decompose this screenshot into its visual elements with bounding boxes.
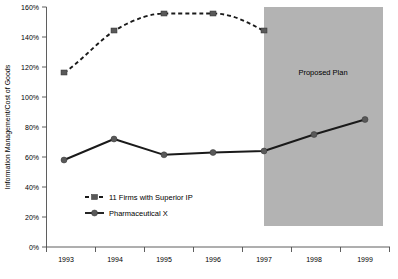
data-point-marker (261, 148, 267, 154)
legend-label: Pharmaceutical X (109, 209, 168, 218)
y-tick-label: 20% (25, 214, 39, 221)
x-tick-label: 1993 (58, 256, 74, 263)
y-tick-label: 160% (21, 4, 39, 11)
y-tick-label: 40% (25, 184, 39, 191)
legend-item-11-firms-with-superior-ip[interactable]: 11 Firms with Superior IP (85, 193, 193, 202)
proposed-plan-label: Proposed Plan (298, 68, 347, 77)
y-axis-tick-labels: 160% 140% 120% 100% 80% 60% 40% 20% 0% (21, 4, 39, 251)
data-point-marker (111, 28, 117, 33)
chart-container: Proposed Plan 160% 140% 120% 100% 80% 60… (0, 0, 398, 279)
x-tick-label: 1997 (256, 256, 272, 263)
legend-item-pharmaceutical-x[interactable]: Pharmaceutical X (85, 209, 168, 218)
data-point-marker (362, 117, 368, 123)
data-point-marker (210, 150, 216, 156)
chart-legend: 11 Firms with Superior IP Pharmaceutical… (85, 193, 193, 218)
y-tick-label: 60% (25, 154, 39, 161)
x-tick-label: 1995 (156, 256, 172, 263)
y-tick-label: 100% (21, 94, 39, 101)
y-tick-label: 120% (21, 64, 39, 71)
x-tick-label: 1998 (306, 256, 322, 263)
y-axis-title: Information Management/Cost of Goods (4, 64, 12, 189)
x-tick-label: 1996 (205, 256, 221, 263)
data-point-marker (210, 11, 216, 16)
y-tick-label: 0% (29, 244, 39, 251)
data-point-marker (311, 132, 317, 138)
data-point-marker (161, 152, 167, 158)
series-markers-11-firms-with-superior-ip (61, 11, 267, 75)
y-tick-label: 140% (21, 34, 39, 41)
data-point-marker (61, 157, 67, 163)
y-axis-ticks (42, 7, 47, 247)
data-point-marker (111, 136, 117, 142)
legend-label: 11 Firms with Superior IP (109, 193, 193, 202)
data-point-marker (61, 70, 67, 75)
y-tick-label: 80% (25, 124, 39, 131)
x-axis-tick-labels: 1993 1994 1995 1996 1997 1998 1999 (58, 256, 373, 263)
x-tick-label: 1999 (357, 256, 373, 263)
data-point-marker (261, 28, 267, 33)
legend-swatch-circle-marker (92, 210, 98, 216)
x-tick-label: 1994 (107, 256, 123, 263)
x-axis-ticks (47, 247, 390, 252)
series-line-11-firms-with-superior-ip (64, 14, 264, 74)
legend-swatch-square-marker (92, 195, 98, 200)
line-chart: Proposed Plan 160% 140% 120% 100% 80% 60… (0, 0, 398, 279)
data-point-marker (161, 11, 167, 16)
